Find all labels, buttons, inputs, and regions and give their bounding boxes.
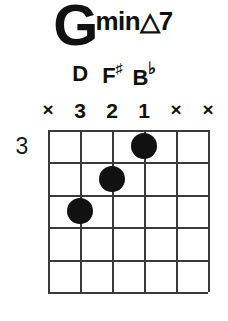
mute-icon-string-5: × [170, 100, 181, 119]
major-seventh-triangle-icon: △ [140, 9, 159, 34]
sharp-icon: ♯ [115, 60, 122, 76]
fret-line-1 [48, 162, 208, 164]
fretboard-grid [48, 130, 208, 292]
nut-line [48, 130, 208, 132]
note-letter: D [72, 61, 87, 86]
finger-dot-string-4-fret-1 [131, 133, 157, 159]
note-name-string-4: B♭ [133, 63, 156, 89]
mute-icon-string-1: × [42, 100, 53, 119]
fret-line-5 [48, 292, 208, 294]
finger-dot-string-2-fret-3 [67, 198, 93, 224]
note-letter: F [102, 63, 115, 88]
finger-number-string-2: 3 [74, 100, 86, 121]
finger-dot-string-3-fret-2 [99, 166, 125, 192]
chord-quality: min△7 [95, 6, 172, 36]
fret-line-3 [48, 227, 208, 229]
chord-quality-suffix: 7 [159, 6, 173, 36]
fret-line-2 [48, 195, 208, 197]
chord-quality-prefix: min [95, 6, 140, 36]
fret-line-4 [48, 260, 208, 262]
note-name-string-2: D [72, 63, 87, 85]
finger-number-string-3: 2 [106, 100, 118, 121]
flat-icon: ♭ [148, 59, 156, 78]
string-line-3 [112, 130, 114, 292]
chord-root-letter: G [53, 0, 97, 57]
string-line-6 [208, 130, 210, 292]
note-name-string-3: F♯ [102, 63, 121, 87]
string-line-5 [176, 130, 178, 292]
note-letter: B [133, 65, 148, 90]
mute-icon-string-6: × [202, 100, 213, 119]
finger-number-string-4: 1 [138, 100, 150, 121]
base-fret-label: 3 [16, 135, 29, 158]
string-line-1 [48, 130, 50, 292]
chord-diagram: Gmin△7 DF♯B♭ ×321×× 3 [0, 0, 228, 321]
chord-name: Gmin△7 [0, 0, 228, 54]
